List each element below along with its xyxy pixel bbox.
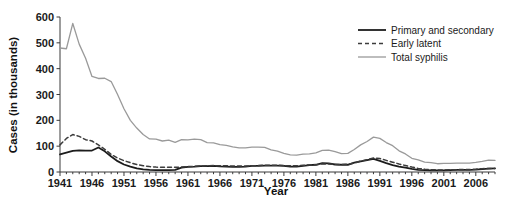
- x-tick-label: 1946: [80, 177, 104, 189]
- x-tick-label: 1991: [368, 177, 392, 189]
- y-tick-label: 500: [36, 37, 54, 49]
- x-tick-label: 2006: [464, 177, 488, 189]
- x-tick-label: 1971: [240, 177, 264, 189]
- y-tick-label: 300: [36, 89, 54, 101]
- chart-figure: Cases (in thousands) 0100200300400500600…: [0, 0, 506, 200]
- syphilis-cases-line-chart: Cases (in thousands) 0100200300400500600…: [0, 0, 506, 200]
- x-tick-label: 1981: [304, 177, 328, 189]
- y-tick-label: 600: [36, 11, 54, 23]
- legend-label: Total syphilis: [391, 52, 448, 63]
- y-tick-label: 200: [36, 114, 54, 126]
- y-tick-label: 400: [36, 63, 54, 75]
- x-axis-title: Year: [264, 185, 289, 197]
- x-tick-label: 1961: [176, 177, 200, 189]
- legend-label: Primary and secondary: [391, 25, 494, 36]
- x-tick-label: 1986: [336, 177, 360, 189]
- x-tick-label: 1941: [48, 177, 72, 189]
- x-tick-label: 1956: [144, 177, 168, 189]
- y-axis-title: Cases (in thousands): [7, 37, 19, 153]
- x-tick-label: 1951: [112, 177, 136, 189]
- x-tick-label: 2001: [432, 177, 456, 189]
- x-tick-label: 1996: [400, 177, 424, 189]
- y-tick-label: 100: [36, 140, 54, 152]
- x-tick-label: 1966: [208, 177, 232, 189]
- legend-label: Early latent: [391, 38, 441, 49]
